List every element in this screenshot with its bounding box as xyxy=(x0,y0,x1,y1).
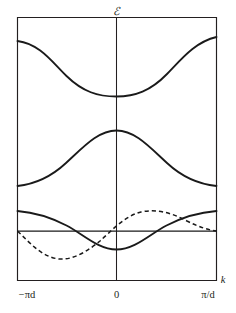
band-structure-figure: ℰ k −πd 0 π/d xyxy=(0,0,236,313)
band-structure-plot: ℰ k −πd 0 π/d xyxy=(0,0,236,313)
energy-axis-label: ℰ xyxy=(113,5,121,17)
x-tick-label-left: −πd xyxy=(19,289,36,300)
k-axis-label: k xyxy=(221,274,226,285)
x-tick-label-center: 0 xyxy=(114,289,119,300)
x-tick-label-right: π/d xyxy=(201,289,215,300)
